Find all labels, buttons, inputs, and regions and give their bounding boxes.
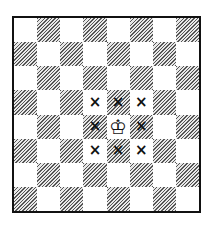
- square-c5[interactable]: [60, 90, 83, 114]
- square-e4[interactable]: ♔: [107, 115, 130, 139]
- square-c6[interactable]: [60, 66, 83, 90]
- square-a7[interactable]: [14, 42, 37, 66]
- square-a1[interactable]: [14, 187, 37, 211]
- square-h7[interactable]: [176, 42, 199, 66]
- square-c2[interactable]: [60, 163, 83, 187]
- square-f2[interactable]: [130, 163, 153, 187]
- square-g4[interactable]: [153, 115, 176, 139]
- move-target-x-icon: ×: [135, 143, 148, 158]
- square-c4[interactable]: [60, 115, 83, 139]
- square-e2[interactable]: [107, 163, 130, 187]
- square-g3[interactable]: [153, 139, 176, 163]
- move-target-x-icon: ×: [135, 119, 148, 134]
- chess-board: ××××♔××××: [12, 16, 201, 213]
- square-h6[interactable]: [176, 66, 199, 90]
- square-a4[interactable]: [14, 115, 37, 139]
- move-target-x-icon: ×: [89, 119, 102, 134]
- white-king-icon[interactable]: ♔: [109, 117, 127, 137]
- square-h5[interactable]: [176, 90, 199, 114]
- move-target-x-icon: ×: [89, 95, 102, 110]
- square-d8[interactable]: [83, 18, 106, 42]
- square-a2[interactable]: [14, 163, 37, 187]
- square-g5[interactable]: [153, 90, 176, 114]
- square-b5[interactable]: [37, 90, 60, 114]
- square-c7[interactable]: [60, 42, 83, 66]
- square-f4[interactable]: ×: [130, 115, 153, 139]
- square-d4[interactable]: ×: [83, 115, 106, 139]
- square-a5[interactable]: [14, 90, 37, 114]
- square-h4[interactable]: [176, 115, 199, 139]
- square-a8[interactable]: [14, 18, 37, 42]
- square-e6[interactable]: [107, 66, 130, 90]
- square-c8[interactable]: [60, 18, 83, 42]
- square-e5[interactable]: ×: [107, 90, 130, 114]
- square-d6[interactable]: [83, 66, 106, 90]
- square-g1[interactable]: [153, 187, 176, 211]
- move-target-x-icon: ×: [89, 143, 102, 158]
- square-d2[interactable]: [83, 163, 106, 187]
- square-c1[interactable]: [60, 187, 83, 211]
- square-e8[interactable]: [107, 18, 130, 42]
- square-h1[interactable]: [176, 187, 199, 211]
- move-target-x-icon: ×: [112, 143, 125, 158]
- square-b6[interactable]: [37, 66, 60, 90]
- square-b8[interactable]: [37, 18, 60, 42]
- square-d7[interactable]: [83, 42, 106, 66]
- move-target-x-icon: ×: [135, 95, 148, 110]
- move-target-x-icon: ×: [112, 95, 125, 110]
- square-f1[interactable]: [130, 187, 153, 211]
- square-e3[interactable]: ×: [107, 139, 130, 163]
- square-b7[interactable]: [37, 42, 60, 66]
- square-c3[interactable]: [60, 139, 83, 163]
- square-f7[interactable]: [130, 42, 153, 66]
- square-b2[interactable]: [37, 163, 60, 187]
- square-g2[interactable]: [153, 163, 176, 187]
- square-e1[interactable]: [107, 187, 130, 211]
- square-d3[interactable]: ×: [83, 139, 106, 163]
- square-b3[interactable]: [37, 139, 60, 163]
- square-h2[interactable]: [176, 163, 199, 187]
- square-a6[interactable]: [14, 66, 37, 90]
- square-g8[interactable]: [153, 18, 176, 42]
- square-h8[interactable]: [176, 18, 199, 42]
- square-e7[interactable]: [107, 42, 130, 66]
- square-d5[interactable]: ×: [83, 90, 106, 114]
- square-h3[interactable]: [176, 139, 199, 163]
- square-g6[interactable]: [153, 66, 176, 90]
- square-b1[interactable]: [37, 187, 60, 211]
- square-f8[interactable]: [130, 18, 153, 42]
- square-f5[interactable]: ×: [130, 90, 153, 114]
- square-f6[interactable]: [130, 66, 153, 90]
- square-f3[interactable]: ×: [130, 139, 153, 163]
- square-b4[interactable]: [37, 115, 60, 139]
- square-g7[interactable]: [153, 42, 176, 66]
- square-a3[interactable]: [14, 139, 37, 163]
- square-d1[interactable]: [83, 187, 106, 211]
